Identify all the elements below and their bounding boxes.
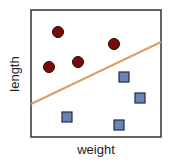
- circle-point: [53, 27, 64, 38]
- circle-point: [73, 57, 84, 68]
- x-axis-label: weight: [76, 142, 115, 157]
- circle-point: [44, 62, 55, 73]
- square-point: [62, 112, 72, 122]
- square-point: [119, 72, 129, 82]
- square-point: [135, 93, 145, 103]
- y-axis-label: length: [7, 56, 22, 91]
- scatter-figure: weight length: [0, 0, 169, 163]
- circle-point: [109, 39, 120, 50]
- square-point: [114, 120, 124, 130]
